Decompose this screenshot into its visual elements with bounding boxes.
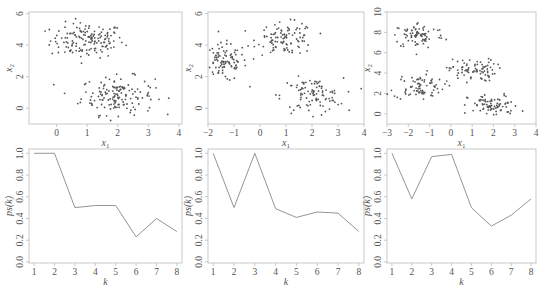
x-tick-label: 4 (273, 267, 278, 277)
x-tick-label: 1 (390, 267, 395, 277)
x-tick-label: 1 (32, 267, 37, 277)
y-tick-label: 0.2 (373, 234, 383, 246)
x-tick-label: 7 (509, 267, 514, 277)
x-axis-label: x1 (281, 137, 290, 150)
y-tick-label: 6 (15, 11, 25, 16)
scatter-points (44, 18, 169, 122)
plot-frame (29, 149, 182, 263)
x-tick-label: 3 (336, 128, 341, 138)
x-axis-label: x1 (101, 137, 110, 150)
ps-line (34, 153, 177, 237)
x-tick-label: 5 (469, 267, 474, 277)
x-tick-label: −1 (229, 128, 239, 138)
ps-line (392, 153, 531, 226)
y-tick-label: 4 (15, 43, 25, 48)
x-tick-label: 4 (534, 128, 539, 138)
scatter-points (386, 22, 523, 116)
y-tick-label: 0.4 (194, 212, 204, 224)
plot-frame (208, 149, 364, 263)
y-tick-label: 0.4 (373, 212, 383, 224)
x-tick-label: 0 (448, 128, 453, 138)
y-tick-label: 0 (373, 111, 383, 116)
y-axis-label: x2 (182, 64, 195, 73)
x-tick-label: 5 (113, 267, 118, 277)
x-axis-label: k (459, 276, 464, 287)
x-tick-label: 2 (491, 128, 496, 138)
y-tick-label: 0.0 (15, 256, 25, 268)
x-tick-label: 7 (336, 267, 341, 277)
x-tick-label: 2 (409, 267, 414, 277)
y-axis-ticks: 0.00.20.40.60.81.0 (194, 147, 208, 268)
x-tick-label: 8 (175, 267, 180, 277)
x-axis-ticks: 12345678 (390, 263, 534, 277)
x-axis-ticks: −3−2−101234 (382, 124, 539, 138)
y-tick-label: 4 (373, 70, 383, 75)
y-axis-label: x2 (3, 64, 16, 73)
y-tick-label: 4 (194, 43, 204, 48)
y-tick-label: 2 (373, 91, 383, 96)
x-tick-label: 4 (362, 128, 367, 138)
x-axis-label: k (284, 276, 289, 287)
plot-frame (387, 149, 536, 263)
y-tick-label: 2 (194, 74, 204, 79)
x-tick-label: 3 (146, 128, 151, 138)
x-tick-label: 3 (73, 267, 78, 277)
y-tick-label: 0.6 (194, 191, 204, 203)
x-tick-label: 4 (177, 128, 182, 138)
chart-scatter-3-clusters: −2−1012340246x1x2 (182, 11, 367, 150)
chart-scatter-4-clusters: −3−2−1012340246810x1x2 (361, 7, 539, 150)
x-tick-label: 6 (134, 267, 139, 277)
x-tick-label: 2 (52, 267, 57, 277)
y-axis-label: ps(k) (3, 195, 15, 217)
y-tick-label: 2 (15, 74, 25, 79)
x-tick-label: 2 (310, 128, 315, 138)
x-tick-label: −2 (403, 128, 413, 138)
y-tick-label: 0.2 (15, 234, 25, 246)
y-axis-ticks: 0.00.20.40.60.81.0 (373, 147, 387, 268)
x-tick-label: 4 (449, 267, 454, 277)
x-axis-ticks: 12345678 (32, 263, 180, 277)
x-tick-label: 1 (85, 128, 90, 138)
x-tick-label: 2 (232, 267, 237, 277)
x-tick-label: 1 (211, 267, 216, 277)
x-axis-ticks: −2−101234 (203, 124, 367, 138)
y-tick-label: 6 (194, 11, 204, 16)
x-tick-label: 7 (154, 267, 159, 277)
y-tick-label: 0 (15, 106, 25, 111)
charts-canvas: 012340246x1x2−2−1012340246x1x2−3−2−10123… (0, 0, 547, 294)
x-axis-ticks: 01234 (54, 124, 181, 138)
figure-grid: 012340246x1x2−2−1012340246x1x2−3−2−10123… (0, 0, 547, 294)
x-tick-label: 8 (529, 267, 534, 277)
y-axis-ticks: 0246810 (373, 7, 387, 116)
x-axis-ticks: 12345678 (211, 263, 362, 277)
x-tick-label: 1 (470, 128, 475, 138)
x-tick-label: 4 (93, 267, 98, 277)
chart-ps-2-clusters: 123456780.00.20.40.60.81.0kps(k) (3, 147, 182, 287)
x-tick-label: 3 (512, 128, 517, 138)
plot-frame (29, 12, 182, 124)
y-tick-label: 10 (373, 7, 383, 17)
x-tick-label: −3 (382, 128, 392, 138)
y-tick-label: 0.8 (194, 169, 204, 181)
plot-frame (208, 12, 364, 124)
x-tick-label: 0 (54, 128, 59, 138)
y-tick-label: 1.0 (15, 147, 25, 159)
x-tick-label: 5 (294, 267, 299, 277)
y-axis-ticks: 0246 (194, 11, 208, 111)
x-axis-label: x1 (457, 137, 466, 150)
x-tick-label: 0 (258, 128, 263, 138)
x-tick-label: 6 (315, 267, 320, 277)
y-tick-label: 0.0 (373, 256, 383, 268)
x-tick-label: −2 (203, 128, 213, 138)
ps-line (213, 153, 359, 231)
y-tick-label: 0.6 (373, 191, 383, 203)
y-tick-label: 0.8 (15, 169, 25, 181)
y-tick-label: 0.0 (194, 256, 204, 268)
y-tick-label: 0.8 (373, 169, 383, 181)
x-tick-label: 6 (489, 267, 494, 277)
y-axis-ticks: 0246 (15, 11, 29, 111)
y-tick-label: 1.0 (194, 147, 204, 159)
y-tick-label: 0.2 (194, 234, 204, 246)
y-axis-label: ps(k) (361, 195, 373, 217)
y-tick-label: 0.4 (15, 212, 25, 224)
